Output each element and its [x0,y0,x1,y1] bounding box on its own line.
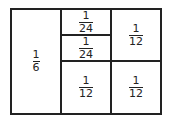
numerator: 1 [83,37,90,47]
fraction-label: 1 24 [79,37,93,60]
denominator: 24 [79,24,93,34]
denominator: 24 [79,50,93,60]
cell-one-sixth: 1 6 [12,10,60,113]
denominator: 12 [129,37,143,47]
fraction-label: 1 6 [33,50,40,73]
cell-one-twenty-fourth-bottom: 1 24 [62,36,110,60]
denominator: 12 [129,89,143,99]
numerator: 1 [33,50,40,60]
outer-bottom-border [10,113,162,115]
fraction-partition-diagram: 1 6 1 24 1 24 1 12 1 12 [0,0,169,119]
numerator: 1 [133,76,140,86]
cell-one-twenty-fourth-top: 1 24 [62,10,110,34]
numerator: 1 [133,24,140,34]
fraction-label: 1 24 [79,11,93,34]
fraction-label: 1 12 [79,76,93,99]
cell-one-twelfth-middle-bottom: 1 12 [62,62,110,113]
cell-one-twelfth-right-top: 1 12 [112,10,160,60]
fraction-label: 1 12 [129,24,143,47]
numerator: 1 [83,11,90,21]
fraction-label: 1 12 [129,76,143,99]
denominator: 6 [33,63,40,73]
denominator: 12 [79,89,93,99]
cell-one-twelfth-right-bottom: 1 12 [112,62,160,113]
numerator: 1 [83,76,90,86]
